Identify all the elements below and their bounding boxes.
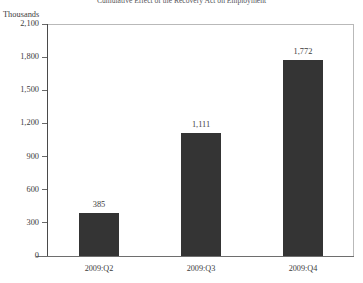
x-axis-line	[36, 256, 354, 257]
y-axis-tick-label: 300	[0, 219, 39, 227]
y-axis-tick-label: 1,800	[0, 53, 39, 61]
y-axis-tick-label: 600	[0, 186, 39, 194]
y-axis-tick-label: 2,100	[0, 20, 39, 28]
y-axis-line	[47, 24, 48, 257]
y-axis-tick	[42, 156, 47, 157]
y-axis-tick	[42, 189, 47, 190]
bar	[283, 60, 323, 256]
chart-title: Cumulative Effect of the Recovery Act on…	[0, 0, 363, 5]
y-axis-units-label: Thousands	[3, 10, 39, 19]
x-axis-category-label: 2009:Q2	[48, 264, 150, 273]
y-axis-tick	[42, 222, 47, 223]
y-axis-tick	[42, 24, 47, 25]
y-axis-tick	[42, 123, 47, 124]
bar-value-label: 1,772	[294, 48, 313, 56]
y-axis-tick	[42, 256, 47, 257]
bar	[79, 213, 119, 256]
y-axis-tick-label: 900	[0, 153, 39, 161]
bar-chart-figure: Cumulative Effect of the Recovery Act on…	[0, 0, 363, 283]
bar-value-label: 385	[93, 201, 106, 209]
y-axis-tick-label: 0	[0, 252, 39, 260]
y-axis-tick	[42, 90, 47, 91]
bar	[181, 133, 221, 256]
y-axis-tick-label: 1,500	[0, 86, 39, 94]
y-axis-tick	[42, 57, 47, 58]
x-axis-category-label: 2009:Q4	[252, 264, 354, 273]
y-axis-tick-label: 1,200	[0, 119, 39, 127]
x-axis-category-label: 2009:Q3	[150, 264, 252, 273]
bar-value-label: 1,111	[192, 121, 210, 129]
